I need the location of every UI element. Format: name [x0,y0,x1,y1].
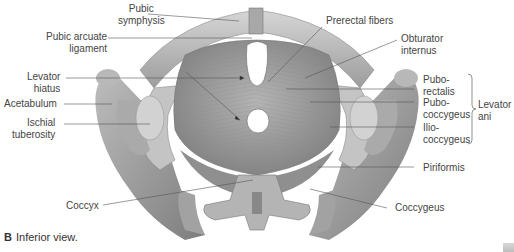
label-pubococcygeus: Pubo- coccygeus [423,97,470,120]
label-puborectalis: Pubo- rectalis [423,74,455,97]
anal-hiatus [247,109,269,133]
label-puborectalis-line2: rectalis [423,86,455,98]
right-ischial-tuberosity [350,96,378,140]
pelvic-floor-figure: Pubic symphysis Pubic arcuate ligament L… [0,0,514,252]
label-puborectalis-line1: Pubo- [423,74,455,86]
coccyx-center [252,192,262,214]
label-levator-hiatus-line2: hiatus [27,83,60,95]
label-pubic-arcuate-line2: ligament [46,43,107,55]
label-iliococcygeus: Ilio- coccygeus [423,122,470,145]
label-piriformis: Piriformis [423,162,465,174]
thumbnail-fragment [503,243,514,252]
label-pubic-symphysis-line2: symphysis [118,15,165,27]
figure-caption: BInferior view. [4,231,78,243]
label-pubic-symphysis: Pubic symphysis [118,3,165,26]
caption-letter: B [4,231,12,243]
label-iliococcygeus-line1: Ilio- [423,122,470,134]
label-pubococcygeus-line1: Pubo- [423,97,470,109]
label-pubic-arcuate-line1: Pubic arcuate [46,31,107,43]
label-levator-ani-line1: Levator [478,99,511,111]
label-levator-ani: Levator ani [478,99,511,122]
label-levator-hiatus-line1: Levator [27,71,60,83]
label-pubic-arcuate-ligament: Pubic arcuate ligament [46,31,107,54]
label-obturator-line2: internus [401,45,443,57]
urogenital-hiatus [246,42,267,87]
label-acetabulum: Acetabulum [4,98,57,110]
label-levator-ani-line2: ani [478,111,511,123]
label-coccygeus: Coccygeus [395,202,444,214]
label-prerectal-fibers: Prerectal fibers [326,15,393,27]
label-coccyx: Coccyx [66,200,99,212]
label-obturator-internus: Obturator internus [401,33,443,56]
right-iliac-tip [394,69,418,87]
label-pubococcygeus-line2: coccygeus [423,109,470,121]
label-ischial-line1: Ischial [12,117,55,129]
label-ischial-tuberosity: Ischial tuberosity [12,117,55,140]
pubic-symphysis [249,8,263,34]
label-obturator-line1: Obturator [401,33,443,45]
label-ischial-line2: tuberosity [12,129,55,141]
label-pubic-symphysis-line1: Pubic [118,3,165,15]
label-iliococcygeus-line2: coccygeus [423,134,470,146]
left-ischial-tuberosity [136,96,164,140]
caption-text: Inferior view. [16,231,78,243]
levator-ani-bracket [466,73,478,145]
label-levator-hiatus: Levator hiatus [27,71,60,94]
